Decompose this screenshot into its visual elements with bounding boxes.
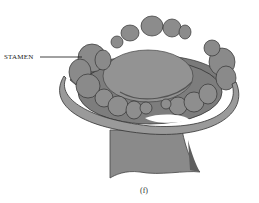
stamen-illustration: [0, 0, 259, 203]
stalk: [110, 130, 200, 178]
central-disc: [103, 50, 193, 102]
stamens-back: [111, 16, 191, 48]
figure-caption: (f): [140, 186, 148, 195]
stamen-label: STAMEN: [4, 53, 33, 61]
